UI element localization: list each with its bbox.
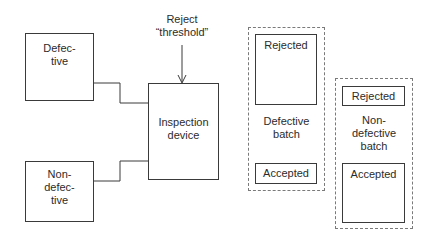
device-label-line2: device xyxy=(149,129,218,142)
nondefective-batch-accepted-box: Accepted xyxy=(342,163,405,223)
nondefective-label-line2: defec- xyxy=(26,181,93,194)
nondefective-label-line1: Non- xyxy=(26,168,93,181)
nondefective-batch-title-line3: batch xyxy=(336,140,412,153)
defective-label-line2: tive xyxy=(26,55,93,68)
nondefective-batch-rejected-box: Rejected xyxy=(342,86,405,106)
defective-batch-container: Rejected Defective batch Accepted xyxy=(248,27,325,191)
connector-nondefective xyxy=(93,161,148,181)
nondefective-batch-rejected-label: Rejected xyxy=(343,90,404,103)
defective-input-box: Defec- tive xyxy=(25,33,94,101)
inspection-device-box: Inspection device xyxy=(148,83,219,180)
threshold-label-line2: “threshold” xyxy=(142,26,222,39)
defective-batch-title: Defective batch xyxy=(249,115,324,141)
nondefective-batch-title: Non- defective batch xyxy=(336,114,412,153)
nondefective-batch-title-line2: defective xyxy=(336,127,412,140)
defective-batch-rejected-box: Rejected xyxy=(255,34,317,105)
defective-label-line1: Defec- xyxy=(26,42,93,55)
defective-batch-accepted-box: Accepted xyxy=(255,163,317,184)
defective-batch-rejected-label: Rejected xyxy=(256,39,316,52)
defective-batch-accepted-label: Accepted xyxy=(256,167,316,180)
nondefective-batch-accepted-label: Accepted xyxy=(343,168,404,181)
nondefective-label-line3: tive xyxy=(26,194,93,207)
connector-defective xyxy=(93,83,148,103)
nondefective-batch-container: Rejected Non- defective batch Accepted xyxy=(335,78,413,229)
threshold-label: Reject “threshold” xyxy=(142,13,222,39)
device-label-line1: Inspection xyxy=(149,116,218,129)
nondefective-input-box: Non- defec- tive xyxy=(25,161,94,222)
threshold-label-line1: Reject xyxy=(142,13,222,26)
defective-batch-title-line2: batch xyxy=(249,128,324,141)
defective-batch-title-line1: Defective xyxy=(249,115,324,128)
nondefective-batch-title-line1: Non- xyxy=(336,114,412,127)
